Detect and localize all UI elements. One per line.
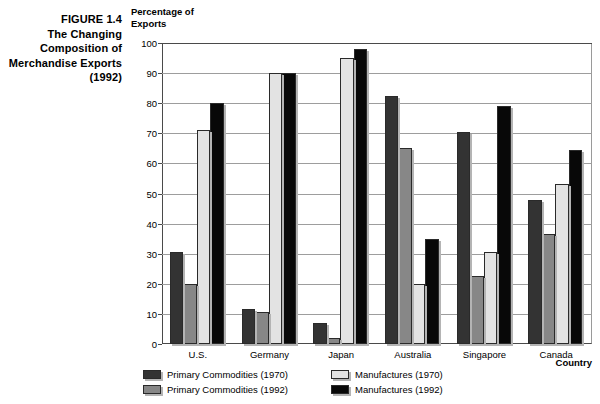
y-axis-tick-label: 40 [146, 218, 157, 229]
bar-face [197, 130, 211, 344]
bar-face [528, 200, 542, 344]
legend-item: Primary Commodities (1992) [143, 382, 331, 397]
bar-group [242, 43, 296, 344]
bar-face [282, 73, 296, 344]
bar-face [398, 148, 412, 344]
legend-swatch [143, 370, 161, 379]
bar-face [484, 252, 498, 344]
y-axis-title-line: Exports [131, 18, 241, 30]
bar-face [183, 284, 197, 344]
y-axis-title-line: Percentage of [131, 6, 241, 18]
y-axis-title: Percentage of Exports [131, 6, 241, 29]
bar [385, 96, 399, 344]
bar-group [313, 43, 367, 344]
y-axis-tick-mark [158, 73, 162, 74]
bar [327, 338, 341, 344]
bar [542, 234, 556, 344]
legend-swatch-face [331, 370, 349, 379]
y-axis-tick-mark [158, 194, 162, 195]
bar-face [210, 103, 224, 344]
legend-label: Manufactures (1970) [355, 369, 443, 380]
bar-group [385, 43, 439, 344]
bar-face [569, 150, 583, 344]
bar-face [313, 323, 327, 344]
legend-swatch [143, 385, 161, 394]
y-axis-tick-mark [158, 284, 162, 285]
figure-caption-line: FIGURE 1.4 [0, 12, 122, 27]
x-axis-tick-label: Singapore [463, 349, 506, 360]
x-axis-title: Country [556, 357, 592, 368]
bar-face [255, 312, 269, 344]
bar [170, 252, 184, 344]
x-axis-tick-label: Australia [394, 349, 431, 360]
legend-item: Manufactures (1970) [331, 367, 519, 382]
bar-face [269, 73, 283, 344]
legend-item: Primary Commodities (1970) [143, 367, 331, 382]
y-axis-tick-label: 0 [152, 339, 157, 350]
y-axis-tick-label: 80 [146, 98, 157, 109]
bar [457, 132, 471, 344]
chart-plot-area: 0102030405060708090100 U.S.GermanyJapanA… [162, 43, 592, 344]
legend-swatch-face [143, 385, 161, 394]
figure-caption-line: Merchandise Exports [0, 56, 122, 71]
bar-face [497, 106, 511, 344]
bar-face [542, 234, 556, 344]
y-axis-tick-mark [158, 254, 162, 255]
chart-legend: Primary Commodities (1970)Manufactures (… [143, 367, 543, 397]
legend-item: Manufactures (1992) [331, 382, 519, 397]
bar [425, 239, 439, 344]
y-axis-tick-mark [158, 103, 162, 104]
figure-caption-line: (1992) [0, 70, 122, 85]
bar-face [385, 96, 399, 344]
y-axis-tick-mark [158, 344, 162, 345]
bar [354, 49, 368, 344]
bar [197, 130, 211, 344]
bar-face [340, 58, 354, 344]
legend-swatch [331, 370, 349, 379]
bar [210, 103, 224, 344]
legend-swatch [331, 385, 349, 394]
legend-swatch-face [331, 385, 349, 394]
y-axis-tick-label: 10 [146, 308, 157, 319]
bar-face [425, 239, 439, 344]
bar-group [528, 43, 582, 344]
y-axis-tick-label: 100 [141, 38, 157, 49]
y-axis-tick-label: 60 [146, 158, 157, 169]
bar-face [354, 49, 368, 344]
y-axis-tick-label: 50 [146, 188, 157, 199]
x-axis-tick-label: Germany [250, 349, 289, 360]
bar [555, 184, 569, 344]
bar-face [457, 132, 471, 344]
x-axis-tick-label: Japan [328, 349, 354, 360]
legend-label: Manufactures (1992) [355, 384, 443, 395]
bar [269, 73, 283, 344]
bar-group [170, 43, 224, 344]
legend-label: Primary Commodities (1970) [167, 369, 288, 380]
bar [484, 252, 498, 344]
y-axis-tick-label: 20 [146, 278, 157, 289]
bar [313, 323, 327, 344]
bar [412, 284, 426, 344]
bar-face [242, 309, 256, 344]
legend-swatch-face [143, 370, 161, 379]
bar-face [327, 338, 341, 344]
bar-face [555, 184, 569, 344]
y-axis-tick-label: 70 [146, 128, 157, 139]
bar-face [412, 284, 426, 344]
bar [398, 148, 412, 344]
bar [528, 200, 542, 344]
bar [255, 312, 269, 344]
y-axis-tick-label: 90 [146, 68, 157, 79]
bar [282, 73, 296, 344]
bar [470, 276, 484, 344]
y-axis-tick-label: 30 [146, 248, 157, 259]
figure-caption-line: The Changing [0, 27, 122, 42]
y-axis-tick-mark [158, 133, 162, 134]
bar [340, 58, 354, 344]
bar [242, 309, 256, 344]
y-axis-tick-mark [158, 314, 162, 315]
bar-face [170, 252, 184, 344]
figure-caption-line: Composition of [0, 41, 122, 56]
legend-label: Primary Commodities (1992) [167, 384, 288, 395]
x-axis-tick-label: U.S. [189, 349, 207, 360]
